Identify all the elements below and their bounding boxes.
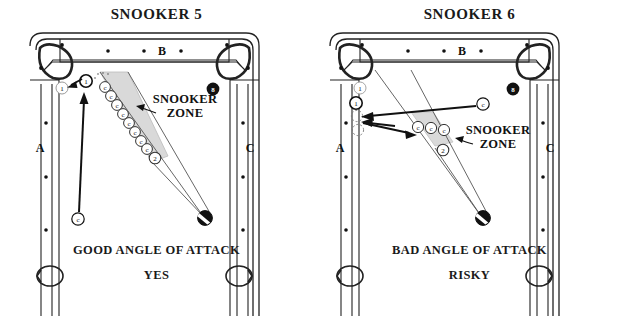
top-rail-dots [106, 49, 183, 53]
svg-text:1: 1 [354, 100, 358, 108]
caption-main-snooker-5: GOOD ANGLE OF ATTACK [0, 243, 313, 258]
ball-one: 1 [350, 97, 362, 109]
caption-verdict-snooker-6: RISKY [313, 268, 626, 283]
ball-two: 2 [149, 152, 161, 164]
left-rail-dots [344, 121, 348, 232]
rail-label-a: A [36, 141, 45, 155]
rail-label-a: A [336, 141, 345, 155]
blocker-ball: c [438, 124, 449, 135]
ball-one-ghost: 1 [354, 82, 366, 94]
contact-scatter-dots [351, 110, 363, 135]
top-rail [44, 39, 245, 70]
svg-text:1: 1 [358, 85, 362, 93]
zone-label-line1: SNOOKER [466, 123, 531, 137]
top-rail-dots [406, 49, 483, 53]
svg-text:c: c [429, 125, 432, 133]
right-rail-dots [241, 121, 245, 232]
eight-ball-marker: 8 [207, 83, 220, 96]
blocker-ball-chain: c c c [412, 121, 449, 135]
svg-text:c: c [481, 101, 484, 109]
zone-label-line2: ZONE [167, 106, 204, 120]
blocker-ball: c [412, 121, 423, 132]
svg-text:2: 2 [153, 155, 157, 163]
ball-two: 2 [437, 144, 449, 156]
svg-text:c: c [442, 127, 445, 135]
zone-label-line2: ZONE [480, 137, 517, 151]
top-rail [344, 39, 545, 70]
snooker-diagram-page: SNOOKER 5 B [0, 0, 626, 316]
eight-ball-marker: 8 [507, 83, 520, 96]
target-black-ball [475, 211, 490, 226]
panel-snooker-5: SNOOKER 5 B [0, 0, 313, 316]
target-black-ball [197, 211, 212, 226]
rail-label-b: B [458, 44, 466, 58]
rail-label-b: B [158, 44, 166, 58]
right-rail-dots [541, 121, 545, 232]
cue-ball: c [477, 98, 489, 110]
svg-text:c: c [103, 84, 106, 92]
cue-path-arrow [79, 92, 89, 212]
svg-text:2: 2 [441, 147, 445, 155]
caption-verdict-snooker-5: YES [0, 268, 313, 283]
left-rail-dots [44, 121, 48, 232]
zone-callout-leader [455, 136, 473, 144]
blocker-ball: c [142, 144, 153, 155]
svg-text:c: c [121, 111, 124, 119]
svg-text:c: c [139, 138, 142, 146]
svg-text:8: 8 [511, 86, 515, 94]
caption-main-snooker-6: BAD ANGLE OF ATTACK [313, 243, 626, 258]
rail-label-c: C [546, 141, 555, 155]
zone-label-line1: SNOOKER [153, 92, 218, 106]
svg-text:c: c [416, 124, 419, 132]
svg-text:1: 1 [60, 85, 64, 93]
svg-text:c: c [133, 129, 136, 137]
svg-text:c: c [76, 216, 79, 224]
svg-text:1: 1 [84, 78, 88, 86]
ball-one: 1 [80, 75, 92, 87]
svg-text:8: 8 [211, 86, 215, 94]
svg-text:c: c [115, 102, 118, 110]
svg-text:c: c [109, 93, 112, 101]
panel-snooker-6: SNOOKER 6 B [313, 0, 626, 316]
svg-text:c: c [145, 146, 148, 154]
blocker-ball: c [425, 122, 436, 133]
cue-ball: c [72, 213, 84, 225]
svg-text:c: c [127, 120, 130, 128]
ball-one-ghost: 1 [56, 82, 68, 94]
rail-label-c: C [246, 141, 255, 155]
